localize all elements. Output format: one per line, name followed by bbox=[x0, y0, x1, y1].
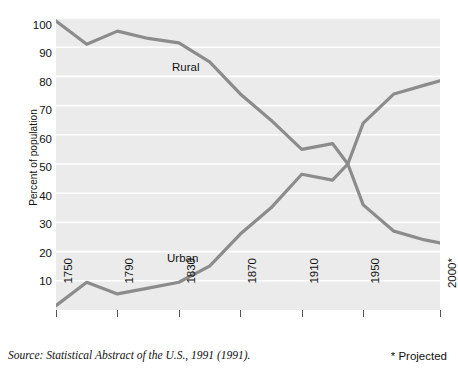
source-note: Source: Statistical Abstract of the U.S.… bbox=[8, 349, 250, 361]
x-tick-mark bbox=[56, 310, 57, 317]
x-tick-label: 1790 bbox=[123, 258, 135, 318]
x-tick-mark bbox=[179, 310, 180, 317]
x-tick-label: 1870 bbox=[246, 258, 258, 318]
x-tick-mark bbox=[302, 310, 303, 317]
x-tick-mark bbox=[240, 310, 241, 317]
x-tick-label: 1950 bbox=[369, 258, 381, 318]
x-tick-mark bbox=[363, 310, 364, 317]
x-tick-label: 1830 bbox=[185, 258, 197, 318]
x-tick-mark bbox=[117, 310, 118, 317]
x-tick-label: 1910 bbox=[308, 258, 320, 318]
x-tick-label: 1750 bbox=[62, 258, 74, 318]
x-tick-mark bbox=[440, 310, 441, 317]
projected-note: * Projected bbox=[391, 350, 447, 362]
x-tick-label: 2000* bbox=[446, 258, 458, 318]
